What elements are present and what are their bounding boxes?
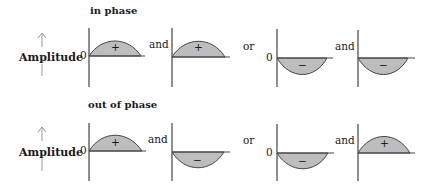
lobe-negative [277,124,334,181]
phase-diagram [0,0,435,193]
sign-label: + [111,136,120,148]
lobe-positive [358,124,415,181]
zero-label: 0 [266,146,273,158]
zero-label: 0 [80,144,87,156]
lobe-positive [89,123,146,181]
connector-and: and [335,40,355,52]
lobe-negative [172,123,230,181]
sign-label: + [111,41,120,53]
heading-in-phase: in phase [90,5,137,16]
connector-or: or [243,40,254,52]
sign-label: − [298,59,307,71]
zero-label: 0 [266,51,273,63]
lobe-positive [172,28,230,87]
lobe-negative [277,29,333,87]
amplitude-label: Amplitude [19,146,83,159]
sign-label: + [194,41,203,53]
amplitude-label: Amplitude [19,51,83,64]
lobe-positive [89,28,145,87]
sign-label: − [298,155,307,167]
zero-label: 0 [80,49,87,61]
sign-label: − [379,59,388,71]
connector-or: or [243,134,254,146]
connector-and: and [148,133,168,145]
sign-label: − [193,154,202,166]
heading-out-of-phase: out of phase [88,99,157,110]
sign-label: + [380,137,389,149]
connector-and: and [335,134,355,146]
connector-and: and [149,38,169,50]
